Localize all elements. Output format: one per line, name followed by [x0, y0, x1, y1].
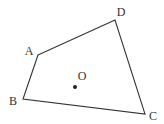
- quadrilateral-diagram: A D C B O: [0, 0, 164, 124]
- quadrilateral-abcd: [23, 20, 145, 114]
- label-o: O: [78, 69, 87, 83]
- point-o: [73, 85, 77, 89]
- label-d: D: [117, 5, 126, 19]
- label-b: B: [9, 94, 17, 108]
- label-a: A: [25, 44, 34, 58]
- label-c: C: [149, 109, 157, 123]
